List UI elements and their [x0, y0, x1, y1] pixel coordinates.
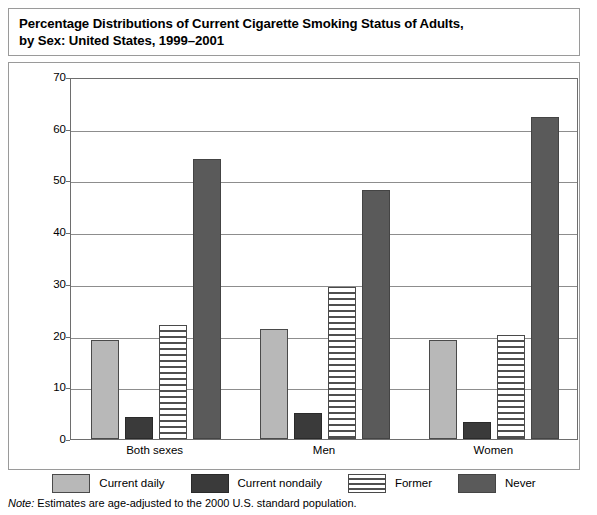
legend-item[interactable]: Current daily — [52, 474, 164, 493]
y-tick-label: 0 — [36, 434, 66, 445]
bar-current-daily — [260, 329, 288, 439]
bar-former — [497, 335, 525, 439]
legend-item[interactable]: Current nondaily — [191, 474, 322, 493]
y-tick-label: 50 — [36, 175, 66, 186]
legend-label: Never — [505, 477, 536, 489]
bar-group — [260, 79, 390, 439]
page-title: Percentage Distributions of Current Ciga… — [19, 15, 569, 49]
y-tick-label: 10 — [36, 382, 66, 393]
legend-label: Current daily — [99, 477, 164, 489]
note-text: Estimates are age-adjusted to the 2000 U… — [34, 497, 356, 509]
bar-group — [429, 79, 559, 439]
bar-group — [91, 79, 221, 439]
bar-current-daily — [91, 340, 119, 439]
bar-former — [159, 325, 187, 439]
legend-swatch-icon — [52, 474, 90, 493]
note-prefix-label: Note: — [8, 497, 34, 509]
legend-item[interactable]: Former — [348, 474, 432, 493]
chart-note: Note: Estimates are age-adjusted to the … — [8, 497, 357, 509]
bar-never — [193, 159, 221, 439]
bar-never — [531, 117, 559, 439]
x-tick-label: Men — [239, 444, 408, 456]
y-tick-label: 70 — [36, 72, 66, 83]
legend-swatch-icon — [348, 474, 386, 493]
y-tick-mark — [66, 440, 70, 441]
y-tick-label: 30 — [36, 279, 66, 290]
legend-swatch-icon — [458, 474, 496, 493]
x-tick-label: Both sexes — [70, 444, 239, 456]
chart-legend: Current dailyCurrent nondailyFormerNever — [8, 470, 580, 496]
legend-swatch-icon — [191, 474, 229, 493]
bar-current-daily — [429, 340, 457, 439]
bar-current-nondaily — [463, 422, 491, 439]
bar-current-nondaily — [125, 417, 153, 439]
y-axis-ticks: 010203040506070 — [32, 78, 66, 440]
bar-current-nondaily — [294, 413, 322, 439]
legend-label: Current nondaily — [238, 477, 322, 489]
y-tick-label: 20 — [36, 331, 66, 342]
bar-never — [362, 190, 390, 439]
x-tick-label: Women — [409, 444, 578, 456]
chart-title-box: Percentage Distributions of Current Ciga… — [8, 8, 580, 56]
plot-area — [70, 78, 578, 440]
legend-label: Former — [395, 477, 432, 489]
legend-item[interactable]: Never — [458, 474, 536, 493]
bar-former — [328, 287, 356, 439]
y-tick-label: 60 — [36, 124, 66, 135]
y-tick-label: 40 — [36, 227, 66, 238]
